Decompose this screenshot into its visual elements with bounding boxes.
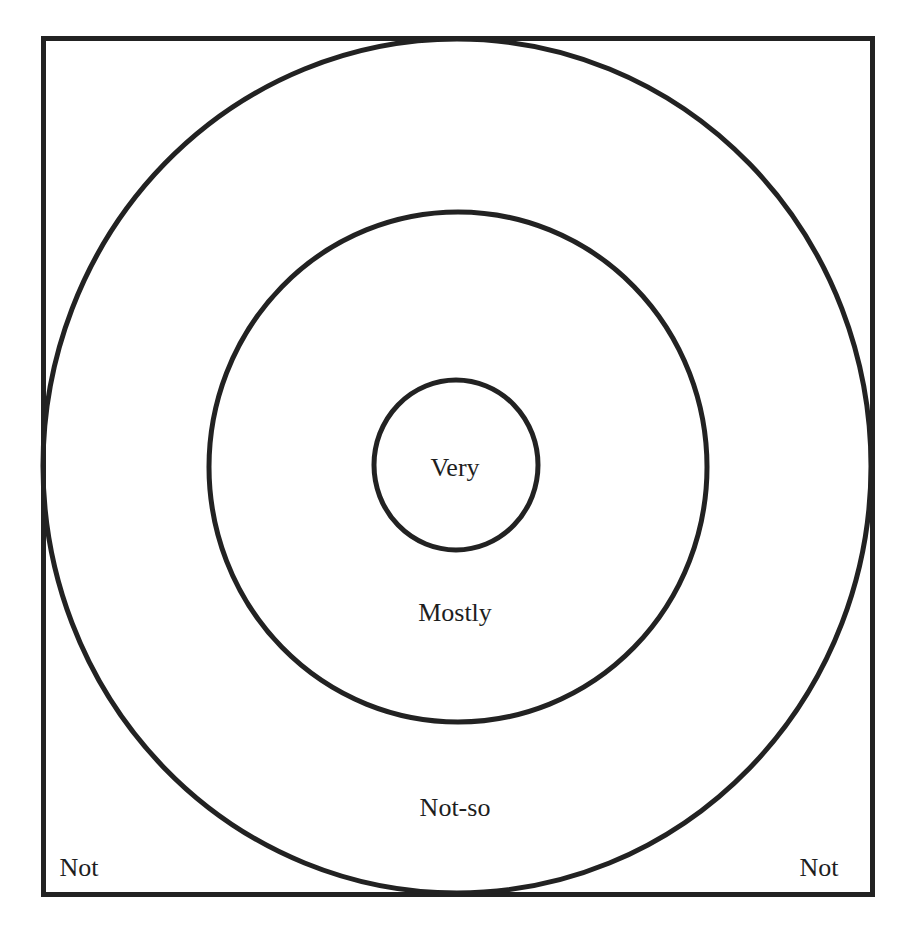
label-mostly: Mostly <box>418 600 492 626</box>
label-not-so: Not-so <box>420 795 491 821</box>
label-not-left: Not <box>60 855 99 881</box>
label-very: Very <box>430 455 479 481</box>
label-not-right: Not <box>800 855 839 881</box>
